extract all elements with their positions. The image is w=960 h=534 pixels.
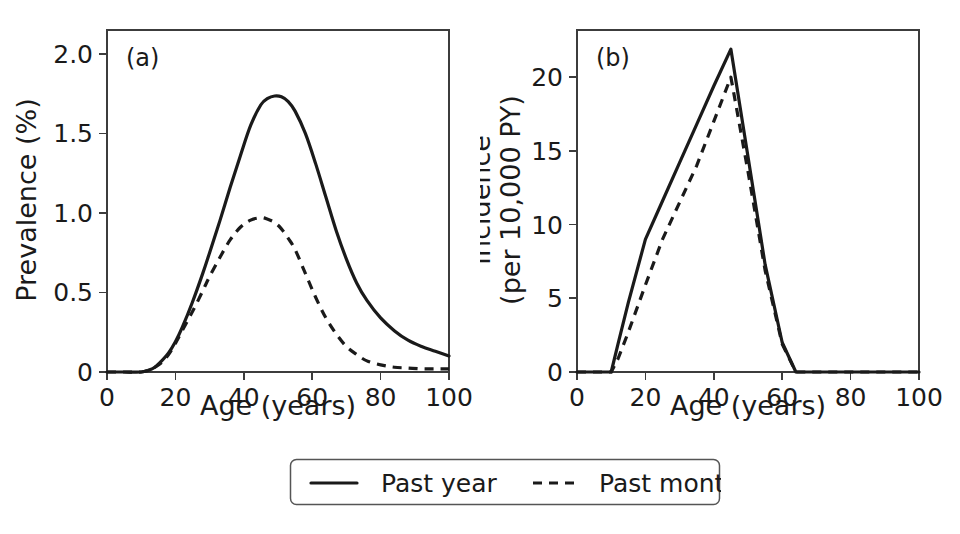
y-tick-label: 0: [77, 358, 93, 387]
y-tick-label: 10: [531, 211, 563, 240]
legend-label-past-month: Past month: [599, 469, 721, 498]
y-tick-label: 5: [547, 284, 563, 313]
x-axis-title: Age (years): [200, 390, 356, 421]
y-axis-title: Prevalence (%): [11, 98, 42, 301]
x-tick-label: 0: [99, 383, 115, 412]
y-axis-title-line1: Incidence: [480, 135, 496, 265]
y-tick-label: 0: [547, 358, 563, 387]
panel-b-series: [577, 49, 919, 372]
series-past-month-line: [577, 77, 919, 372]
legend: Past year Past month: [289, 458, 721, 508]
y-tick-label: 1.0: [53, 199, 93, 228]
y-tick-label: 20: [531, 63, 563, 92]
panel-a-prevalence: 020406080100 00.51.01.52.0 (a) Age (year…: [0, 0, 480, 440]
axis-spines: [577, 30, 919, 372]
y-tick-label: 1.5: [53, 119, 93, 148]
series-past-month-line: [107, 218, 449, 372]
y-tick-label: 15: [531, 137, 563, 166]
y-tick-labels: 00.51.01.52.0: [53, 40, 93, 387]
legend-label-past-year: Past year: [381, 469, 498, 498]
y-axis-title-line2: (per 10,000 PY): [495, 95, 526, 305]
x-tick-label: 80: [365, 383, 397, 412]
figure-container: 020406080100 00.51.01.52.0 (a) Age (year…: [0, 0, 960, 534]
panel-b-incidence: 020406080100 05101520 (b) Age (years) In…: [480, 0, 960, 440]
y-tick-labels: 05101520: [531, 63, 563, 387]
panel-a-series: [107, 96, 449, 372]
panel-b-svg: 020406080100 05101520 (b) Age (years) In…: [480, 0, 960, 440]
panel-label-a: (a): [126, 44, 159, 72]
y-tick-label: 0.5: [53, 278, 93, 307]
x-tick-label: 20: [629, 383, 661, 412]
x-axis-title: Age (years): [670, 390, 826, 421]
x-tick-label: 100: [895, 383, 943, 412]
panel-a-svg: 020406080100 00.51.01.52.0 (a) Age (year…: [0, 0, 480, 440]
legend-svg: Past year Past month: [289, 458, 721, 508]
panel-a-axes: 020406080100 00.51.01.52.0: [53, 30, 473, 412]
y-tick-label: 2.0: [53, 40, 93, 69]
series-past-year-line: [577, 49, 919, 372]
panel-label-b: (b): [596, 44, 630, 72]
x-tick-label: 80: [835, 383, 867, 412]
series-past-year-line: [107, 96, 449, 372]
x-tick-label: 0: [569, 383, 585, 412]
axis-spines: [107, 30, 449, 372]
x-tick-label: 100: [425, 383, 473, 412]
x-tick-label: 20: [159, 383, 191, 412]
